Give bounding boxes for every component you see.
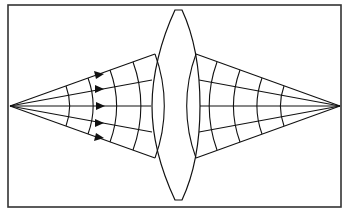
arrow-icon bbox=[94, 71, 104, 79]
arrow-icon bbox=[94, 133, 104, 141]
lens-diagram bbox=[0, 0, 347, 212]
arrow-icon bbox=[96, 102, 105, 110]
refracted-rays bbox=[196, 54, 340, 158]
arrow-icon bbox=[95, 85, 104, 93]
biconvex-lens bbox=[152, 10, 200, 200]
arrow-icon bbox=[95, 119, 104, 127]
incident-rays bbox=[10, 54, 155, 158]
